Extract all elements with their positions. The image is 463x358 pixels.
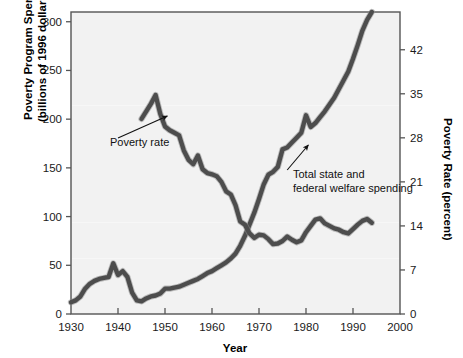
y2-tick-label: 28 xyxy=(410,132,423,144)
y2-axis-title: Poverty Rate (percent) xyxy=(442,118,454,241)
x-tick-label: 1980 xyxy=(293,321,319,333)
y-tick-label: 150 xyxy=(43,162,62,174)
y2-tick-label: 7 xyxy=(410,264,416,276)
chart-figure: 050100150200250300 071421283542 19301940… xyxy=(0,0,463,358)
x-tick-label: 1940 xyxy=(105,321,131,333)
x-tick-label: 2000 xyxy=(387,321,413,333)
y2-tick-label: 42 xyxy=(410,44,423,56)
y2-tick-label: 0 xyxy=(410,308,416,320)
y2-tick-label: 14 xyxy=(410,220,423,232)
x-tick-label: 1960 xyxy=(199,321,225,333)
x-tick-label: 1930 xyxy=(58,321,84,333)
annotation-welfare-spending-line2: federal welfare spending xyxy=(293,182,413,194)
chart-svg: 050100150200250300 071421283542 19301940… xyxy=(0,0,463,358)
x-tick-label: 1950 xyxy=(152,321,178,333)
y-axis-title-line1: Poverty Program Spending xyxy=(22,0,34,120)
y2-tick-label: 35 xyxy=(410,88,423,100)
x-tick-label: 1990 xyxy=(340,321,366,333)
x-tick-label: 1970 xyxy=(246,321,272,333)
y-tick-label: 100 xyxy=(43,211,62,223)
y-tick-label: 50 xyxy=(49,259,62,271)
y-tick-label: 0 xyxy=(56,308,62,320)
y-axis-title-line2: (billions of 1996 dollars) xyxy=(36,0,48,122)
annotation-welfare-spending-line1: Total state and xyxy=(293,168,365,180)
x-axis-title: Year xyxy=(223,342,248,354)
